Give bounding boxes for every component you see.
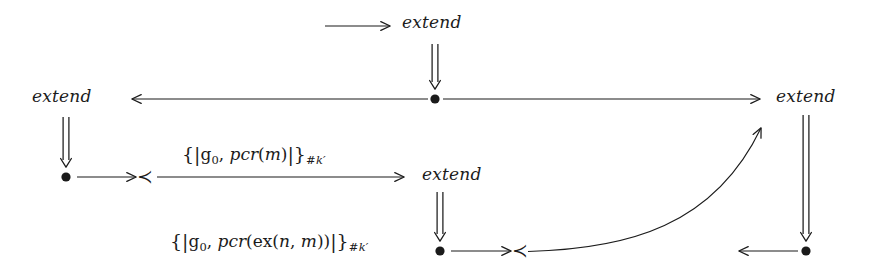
label-extend-left: extend	[32, 88, 92, 105]
node-left-lower	[61, 172, 70, 181]
term2-fn-ex: ex	[253, 231, 273, 251]
node-center	[430, 94, 439, 103]
curve-prec-to-extend-right	[528, 128, 761, 252]
term-pcr-ex-n-m: {|g0, pcr(ex(n, m))|}#k′	[170, 231, 368, 250]
term-comma: ,	[219, 144, 230, 164]
term2-close-brace: |}	[330, 230, 349, 252]
term2-inner-close-paren: )	[317, 231, 324, 251]
term2-arg-n: n	[279, 231, 290, 251]
term2-open-brace: {|	[170, 230, 189, 252]
term2-base-subscript: 0	[199, 240, 206, 254]
prec-mark-left: ≺	[137, 167, 153, 186]
protocol-diagram: extend extend extend extend ≺ ≺ {|g0, pc…	[0, 0, 874, 280]
diagram-vector-layer	[0, 0, 874, 280]
arrow-left-down-double	[61, 117, 72, 167]
label-extend-top: extend	[402, 14, 462, 31]
term2-key-hash: #	[349, 240, 359, 254]
term-close-brace: |}	[287, 143, 306, 165]
term2-base-g: g	[189, 231, 200, 251]
arrow-right-down-double	[801, 115, 812, 241]
node-right-low	[801, 246, 810, 255]
term2-comma: ,	[207, 231, 218, 251]
term2-fn-pcr: pcr	[218, 231, 247, 251]
arrow-top-down-double	[430, 44, 441, 89]
arrow-middle-down-double	[435, 192, 446, 241]
term-open-brace: {|	[182, 143, 201, 165]
term-key-prime: ′	[323, 153, 326, 167]
term-arg-m: m	[265, 144, 281, 164]
term2-inner-open-paren: (	[272, 231, 279, 251]
term2-inner-comma: ,	[290, 231, 301, 251]
term2-open-paren: (	[246, 231, 253, 251]
term-base-g: g	[201, 144, 212, 164]
term-key-hash: #	[306, 153, 316, 167]
term2-key-k: k	[359, 240, 366, 254]
term-fn-pcr: pcr	[230, 144, 259, 164]
prec-mark-middle: ≺	[512, 241, 528, 260]
label-extend-middle: extend	[422, 166, 482, 183]
node-middle-low	[435, 246, 444, 255]
label-extend-right: extend	[776, 88, 836, 105]
term-open-paren: (	[258, 144, 265, 164]
term-base-subscript: 0	[211, 153, 218, 167]
term-pcr-m: {|g0, pcr(m)|}#k′	[182, 144, 325, 163]
term2-arg-m: m	[301, 231, 317, 251]
